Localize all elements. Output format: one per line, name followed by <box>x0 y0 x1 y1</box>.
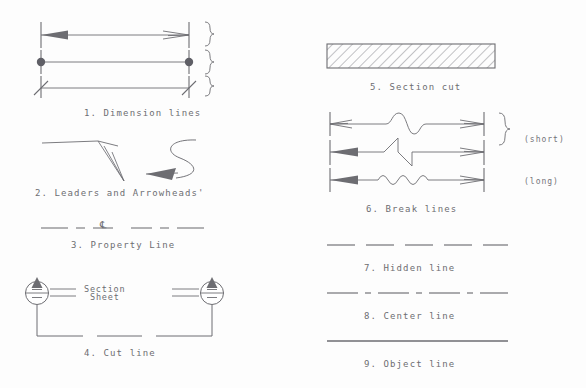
caption-section-cut: 5. Section cut <box>370 82 461 93</box>
leaders-arrowheads-illustration <box>42 140 196 181</box>
caption-leaders-arrowheads: 2. Leaders and Arrowheads' <box>35 188 204 199</box>
section-cut-illustration <box>327 44 495 68</box>
caption-cut-line: 4. Cut line <box>84 348 156 359</box>
caption-center-line: 8. Center line <box>364 311 455 322</box>
dimension-lines-illustration <box>34 22 214 98</box>
caption-object-line: 9. Object line <box>364 359 455 370</box>
property-line-symbol: ℄ <box>100 219 106 230</box>
break-lines-short-label: (short) <box>524 135 565 144</box>
caption-break-lines: 6. Break lines <box>366 204 457 215</box>
caption-hidden-line: 7. Hidden line <box>364 263 455 274</box>
caption-property-line: 3. Property Line <box>71 240 175 251</box>
drawing-sheet: 1. Dimension lines 2. Leaders and Arrowh… <box>0 0 586 388</box>
cut-line-sheet-label: Sheet <box>90 292 120 302</box>
break-lines-long-label: (long) <box>524 177 559 186</box>
caption-dimension-lines: 1. Dimension lines <box>84 108 201 119</box>
break-lines-illustration <box>330 112 510 192</box>
